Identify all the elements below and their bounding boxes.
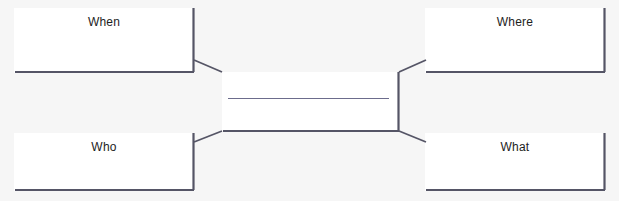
diagram-strokes <box>0 0 619 201</box>
diagram-canvas: When Where Who What <box>0 0 619 201</box>
connector-who-to-center <box>194 131 222 142</box>
connector-where-to-center <box>399 60 426 72</box>
connector-what-to-center <box>399 131 426 142</box>
connector-when-to-center <box>194 60 222 72</box>
